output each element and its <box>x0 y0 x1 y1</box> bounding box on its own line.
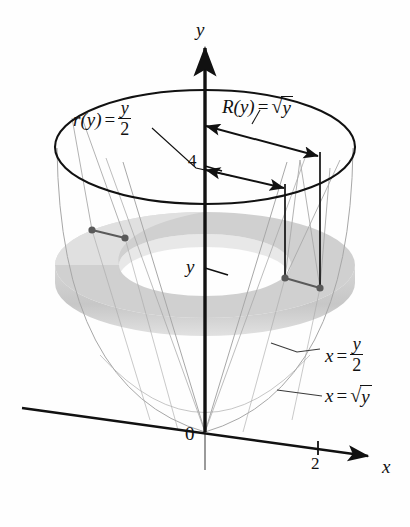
outer-radius-arrow <box>206 126 318 156</box>
y-axis-label: y <box>196 20 204 39</box>
inner-radius-denominator: 2 <box>118 118 131 138</box>
washer-height-label: y <box>186 257 194 276</box>
figure-container: y x 0 4 2 y r(y) = y 2 R(y) = √ y x = y … <box>0 0 410 527</box>
inner-radius-equals: = <box>104 110 115 129</box>
x-axis-group <box>22 408 368 456</box>
outer-radius-formula: R(y) = √ y <box>222 96 293 117</box>
curve-outer-variable: x <box>325 386 333 405</box>
curve-outer-formula: x = √ y <box>325 385 372 406</box>
curve-inner-numerator: y <box>351 335 363 354</box>
outer-radius-equals: = <box>258 97 269 116</box>
washer-diagram-svg <box>0 0 410 527</box>
inner-radius-function-name: r(y) <box>73 110 101 129</box>
inner-radius-fraction: y 2 <box>118 99 131 138</box>
curve-outer-equals: = <box>336 386 347 405</box>
curve-inner-denominator: 2 <box>350 354 363 374</box>
outer-radius-sqrt: √ y <box>271 96 292 117</box>
y-tick-label-4: 4 <box>188 152 197 169</box>
curve-inner-equals: = <box>336 346 347 365</box>
origin-label: 0 <box>185 424 195 443</box>
curve-inner-formula: x = y 2 <box>325 336 363 375</box>
curve-outer-radicand: y <box>360 385 371 406</box>
x-axis-line <box>22 408 368 456</box>
x-axis-label: x <box>382 457 390 476</box>
curve-inner-variable: x <box>325 346 333 365</box>
leader-x-equals-sqrt-y <box>277 390 322 396</box>
x-tick-label-2: 2 <box>311 455 320 472</box>
inner-radius-formula: r(y) = y 2 <box>73 100 131 139</box>
outer-radius-radicand: y <box>281 96 292 117</box>
outer-radius-function-name: R(y) <box>222 97 255 116</box>
curve-inner-fraction: y 2 <box>350 335 363 374</box>
inner-radius-numerator: y <box>119 99 131 118</box>
y-tick-washer <box>205 268 228 275</box>
curve-outer-sqrt: √ y <box>350 385 371 406</box>
